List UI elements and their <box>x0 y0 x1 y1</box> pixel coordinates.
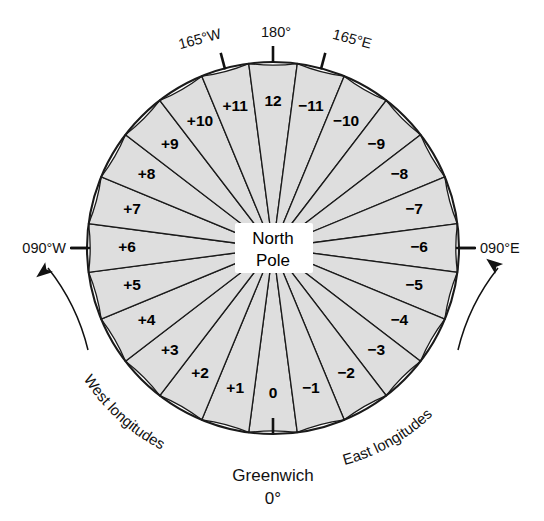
zone-number-label: +10 <box>187 112 213 129</box>
label-165w: 165°W <box>177 25 224 52</box>
label-090e: 090°E <box>480 240 520 256</box>
label-090w: 090°W <box>22 240 66 256</box>
meridian-tick <box>321 53 325 69</box>
zone-number-label: −7 <box>405 200 423 217</box>
zone-number-label: −9 <box>367 135 385 152</box>
label-zero-degrees: 0° <box>265 489 281 508</box>
zone-number-label: −4 <box>391 311 409 328</box>
timezone-wheel-figure: North Pole 0+1+2+3+4+5+6+7+8+9+10+1112−1… <box>0 0 544 521</box>
zone-number-label: +11 <box>222 97 248 114</box>
label-165e: 165°E <box>331 26 374 52</box>
zone-number-label: −11 <box>298 97 324 114</box>
zone-number-label: +3 <box>161 341 179 358</box>
timezone-wheel-svg: North Pole 0+1+2+3+4+5+6+7+8+9+10+1112−1… <box>0 0 544 521</box>
zone-number-label: +6 <box>118 238 136 255</box>
west-direction-arrow <box>48 268 88 350</box>
zone-number-label: +7 <box>123 200 141 217</box>
zone-number-label: +2 <box>191 364 209 381</box>
zone-number-label: +8 <box>138 165 156 182</box>
zone-number-label: +9 <box>161 135 179 152</box>
zone-number-label: +4 <box>138 311 156 328</box>
zone-number-label: −10 <box>333 112 359 129</box>
center-label-pole: Pole <box>256 251 290 270</box>
zone-number-label: −6 <box>410 238 428 255</box>
zone-number-label: −5 <box>405 276 423 293</box>
zone-number-label: −2 <box>337 364 355 381</box>
zone-number-label: −8 <box>391 165 409 182</box>
label-greenwich: Greenwich <box>232 466 313 485</box>
zone-number-label: +5 <box>123 276 141 293</box>
east-direction-arrow <box>458 268 498 350</box>
zone-number-label: 12 <box>264 92 281 109</box>
label-180: 180° <box>261 24 291 40</box>
zone-number-label: −1 <box>302 379 320 396</box>
zone-number-label: +1 <box>226 379 244 396</box>
center-label-north: North <box>252 229 294 248</box>
zone-number-label: 0 <box>269 384 278 401</box>
zone-number-label: −3 <box>367 341 385 358</box>
meridian-tick <box>221 53 225 69</box>
